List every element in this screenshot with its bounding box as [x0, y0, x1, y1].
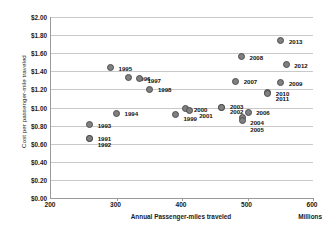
data-point-label: 2009 [289, 79, 303, 86]
gridline [51, 180, 313, 181]
data-point[interactable] [186, 107, 193, 114]
data-point-label: 1993 [98, 121, 112, 128]
data-point[interactable] [146, 86, 153, 93]
data-point[interactable] [86, 121, 93, 128]
data-point[interactable] [283, 61, 290, 68]
gridline [51, 144, 313, 145]
x-axis-title: Annual Passenger-miles traveled [50, 213, 312, 220]
x-axis-tick-label: 300 [110, 201, 121, 208]
x-axis-tick-label: 600 [306, 201, 317, 208]
y-axis-tick-label: $0.20 [3, 176, 47, 183]
data-point-label: 1998 [158, 86, 172, 93]
gridline [51, 35, 313, 36]
data-point-label: 2011 [276, 95, 289, 102]
y-axis-tick-label: $0.40 [3, 158, 47, 165]
y-axis-tick-label: $1.60 [3, 50, 47, 57]
data-point[interactable] [107, 64, 114, 71]
data-point[interactable] [277, 79, 284, 86]
data-point[interactable] [245, 109, 252, 116]
scatter-chart: Cost per passenger-mile traveled $0.00$0… [0, 0, 327, 230]
data-point-label: 1997 [147, 76, 161, 83]
data-point-label: 2006 [256, 109, 270, 116]
gridline [51, 53, 313, 54]
data-point[interactable] [113, 110, 120, 117]
data-point-label: 1999 [183, 114, 197, 121]
y-axis-tick-label: $0.00 [3, 195, 47, 202]
y-axis-tick-label: $0.60 [3, 140, 47, 147]
data-point-label: 1992 [98, 140, 112, 147]
plot-area: 1991199219931994199519961997199819992000… [50, 17, 313, 199]
data-point-label: 2001 [199, 111, 213, 118]
data-point[interactable] [218, 104, 225, 111]
y-axis-tick-label: $2.00 [3, 14, 47, 21]
data-point-label: 2008 [250, 53, 264, 60]
x-axis-tick-label: 200 [44, 201, 55, 208]
gridline [51, 162, 313, 163]
data-point-label: 2005 [250, 125, 264, 132]
data-point-label: 2003 [230, 102, 244, 109]
gridline [51, 89, 313, 90]
data-point-label: 2013 [289, 37, 303, 44]
gridline [51, 71, 313, 72]
data-point[interactable] [239, 117, 246, 124]
data-point[interactable] [238, 53, 245, 60]
data-point-label: 2012 [294, 61, 308, 68]
y-axis-tick-label: $1.80 [3, 32, 47, 39]
y-axis-tick-label: $0.80 [3, 122, 47, 129]
data-point[interactable] [86, 135, 93, 142]
x-axis-tick-label: 500 [241, 201, 252, 208]
data-point[interactable] [232, 78, 239, 85]
gridline [51, 17, 313, 18]
data-point[interactable] [172, 111, 179, 118]
y-axis-tick-label: $1.00 [3, 104, 47, 111]
data-point[interactable] [277, 37, 284, 44]
data-point[interactable] [264, 90, 271, 97]
y-axis-tick-label: $1.20 [3, 86, 47, 93]
data-point-label: 1994 [125, 110, 139, 117]
data-point[interactable] [136, 75, 143, 82]
y-axis-tick-labels: $0.00$0.20$0.40$0.60$0.80$1.00$1.20$1.40… [0, 0, 47, 230]
data-point[interactable] [125, 74, 132, 81]
data-point-label: 1995 [119, 64, 133, 71]
x-axis-units-label: Millions [298, 213, 322, 220]
data-point-label: 2007 [244, 78, 258, 85]
y-axis-tick-label: $1.40 [3, 68, 47, 75]
x-axis-tick-label: 400 [175, 201, 186, 208]
